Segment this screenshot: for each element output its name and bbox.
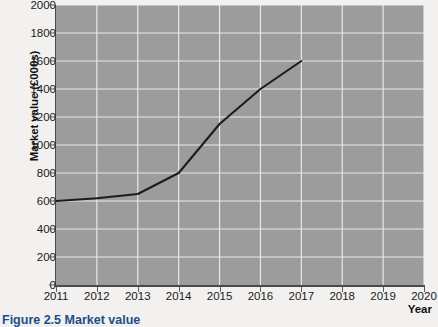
y-tick-mark <box>49 117 55 118</box>
x-tick-mark <box>220 286 221 292</box>
y-tick-mark <box>49 285 55 286</box>
x-tick-label: 2020 <box>399 290 438 302</box>
x-axis-spine <box>55 285 425 287</box>
y-axis-label: Market value (£000s) <box>28 26 40 186</box>
y-tick-mark <box>49 145 55 146</box>
x-tick-mark <box>424 286 425 292</box>
y-tick-mark <box>49 257 55 258</box>
y-tick-mark <box>49 173 55 174</box>
plot-area <box>56 5 424 285</box>
chart-svg <box>56 5 424 285</box>
y-tick-mark <box>49 61 55 62</box>
x-tick-mark <box>179 286 180 292</box>
y-tick-mark <box>49 89 55 90</box>
x-axis-label: Year <box>408 303 432 315</box>
x-tick-mark <box>56 286 57 292</box>
x-tick-mark <box>383 286 384 292</box>
x-tick-mark <box>97 286 98 292</box>
y-tick-mark <box>49 33 55 34</box>
x-tick-mark <box>138 286 139 292</box>
y-tick-mark <box>49 229 55 230</box>
y-tick-mark <box>49 201 55 202</box>
x-tick-mark <box>260 286 261 292</box>
x-tick-mark <box>301 286 302 292</box>
gridlines <box>56 5 424 285</box>
x-tick-mark <box>342 286 343 292</box>
figure-caption: Figure 2.5 Market value <box>2 313 140 327</box>
y-tick-mark <box>49 5 55 6</box>
y-tick-label: 2000 <box>10 0 56 11</box>
